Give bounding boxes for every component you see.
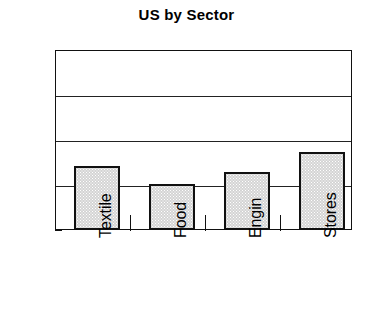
chart-title: US by Sector <box>0 6 373 23</box>
x-axis-label-text: Stores <box>323 192 339 238</box>
x-axis-tick-mark <box>280 215 281 231</box>
x-axis-tick-mark <box>205 215 206 231</box>
y-axis-tick-mark <box>55 230 62 231</box>
x-axis-label-text: Textile <box>98 193 114 238</box>
x-axis-label-text: Food <box>173 202 189 238</box>
bar-chart: US by Sector 8.0 6.0 4.0 2.0 0.0 Textile… <box>0 0 373 325</box>
x-axis-tick-mark <box>130 215 131 231</box>
x-axis-label-text: Engin <box>248 198 264 238</box>
